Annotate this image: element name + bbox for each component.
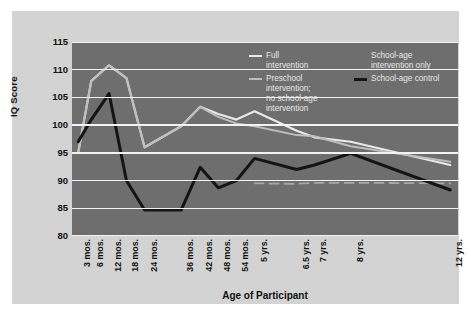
x-axis-tick-label: 24 mos. bbox=[149, 239, 159, 272]
legend-label: School-age control bbox=[371, 74, 439, 83]
x-axis-tick-label: 12 mos. bbox=[113, 239, 123, 272]
x-axis-tick-label: 12 yrs. bbox=[454, 239, 464, 267]
x-axis-tick-label: 36 mos. bbox=[185, 239, 195, 272]
chart-figure: 80859095100105110115 IQ Score Fullinterv… bbox=[0, 0, 471, 316]
legend-column-left: FullinterventionPreschoolintervention;no… bbox=[249, 51, 321, 117]
legend-label: School-ageintervention only bbox=[371, 51, 431, 70]
x-axis-tick-label: 8 yrs. bbox=[355, 239, 365, 262]
x-axis-tick-label: 3 mos. bbox=[82, 239, 92, 267]
legend-entry: School-age control bbox=[354, 74, 454, 84]
gridline bbox=[72, 208, 458, 210]
y-axis-tick-label: 105 bbox=[22, 92, 68, 102]
y-axis-tick-label: 100 bbox=[22, 120, 68, 130]
x-axis-ticks: 3 mos.6 mos.12 mos.18 mos.24 mos.36 mos.… bbox=[72, 239, 458, 287]
legend-column-right: School-ageintervention onlySchool-age co… bbox=[354, 51, 454, 87]
gridline bbox=[72, 124, 458, 126]
legend-swatch-icon bbox=[249, 78, 262, 80]
plot-area: FullinterventionPreschoolintervention;no… bbox=[72, 42, 458, 236]
y-axis-tick-label: 90 bbox=[22, 176, 68, 186]
legend-swatch-icon bbox=[354, 78, 367, 81]
series-line bbox=[255, 183, 451, 184]
x-axis-label: Age of Participant bbox=[72, 290, 458, 301]
y-axis-tick-label: 80 bbox=[22, 231, 68, 241]
legend-swatch-icon bbox=[354, 55, 367, 57]
y-axis-label: IQ Score bbox=[8, 76, 19, 117]
legend-entry: School-ageintervention only bbox=[354, 51, 454, 71]
legend-entry: Fullintervention bbox=[249, 51, 321, 71]
chart-card: 80859095100105110115 IQ Score Fullinterv… bbox=[12, 11, 459, 304]
y-axis-tick-label: 95 bbox=[22, 148, 68, 158]
gridline bbox=[72, 152, 458, 154]
x-axis-tick-label: 54 mos. bbox=[240, 239, 250, 272]
y-axis-tick-label: 115 bbox=[22, 37, 68, 47]
x-axis-tick-label: 7 yrs. bbox=[318, 239, 328, 262]
legend-label: Preschoolintervention;no school-ageinter… bbox=[266, 74, 317, 113]
x-axis-tick-label: 6 mos. bbox=[95, 239, 105, 267]
gridline bbox=[72, 42, 458, 43]
gridline bbox=[72, 235, 458, 236]
gridline bbox=[72, 180, 458, 182]
x-axis-tick-label: 42 mos. bbox=[204, 239, 214, 272]
x-axis-tick-label: 18 mos. bbox=[130, 239, 140, 272]
x-axis-tick-label: 5 yrs. bbox=[259, 239, 269, 262]
y-axis-tick-label: 85 bbox=[22, 203, 68, 213]
x-axis-tick-label: 48 mos. bbox=[222, 239, 232, 272]
legend-label: Fullintervention bbox=[266, 51, 308, 70]
legend-swatch-icon bbox=[249, 55, 262, 57]
y-axis-tick-label: 110 bbox=[22, 65, 68, 75]
x-axis-tick-label: 6.5 yrs. bbox=[301, 239, 311, 269]
y-axis-ticks: 80859095100105110115 bbox=[20, 42, 68, 236]
legend-entry: Preschoolintervention;no school-ageinter… bbox=[249, 74, 321, 114]
